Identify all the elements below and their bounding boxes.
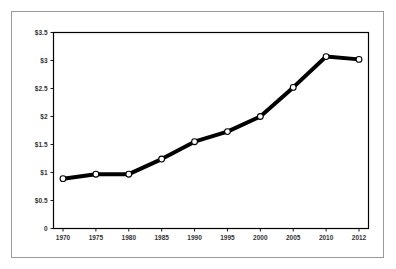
data-point-marker xyxy=(290,84,296,90)
data-point-marker xyxy=(192,139,198,145)
data-point-marker xyxy=(225,129,231,135)
x-axis-label: 1985 xyxy=(154,234,169,241)
x-axis-label: 1975 xyxy=(89,234,104,241)
x-axis-label: 2010 xyxy=(319,234,334,241)
y-axis-label: $2 xyxy=(40,113,48,121)
y-axis-label: $1.5 xyxy=(35,141,48,149)
x-axis-label: 1980 xyxy=(122,234,137,241)
data-series-markers xyxy=(60,54,362,182)
data-point-marker xyxy=(159,156,165,162)
x-axis-label: 1970 xyxy=(56,234,71,241)
x-axis-label: 1990 xyxy=(187,234,202,241)
data-point-marker xyxy=(323,54,329,60)
x-axis-label: 2000 xyxy=(253,234,268,241)
x-axis-label: 2005 xyxy=(286,234,301,241)
data-point-marker xyxy=(126,171,132,177)
y-axis-label: $1 xyxy=(40,169,48,177)
x-axis-label: 1995 xyxy=(220,234,235,241)
data-point-marker xyxy=(60,176,66,182)
x-axis-tick-labels: 1970197519801985199019952000200520102012 xyxy=(56,234,367,241)
y-axis-label: 0 xyxy=(44,225,48,232)
y-axis-tick-labels: 0$0.5$1$1.5$2$2.5$3$3.5 xyxy=(35,29,48,232)
y-axis-label: $3.5 xyxy=(35,29,48,37)
line-chart: 0$0.5$1$1.5$2$2.5$3$3.5 1970197519801985… xyxy=(0,0,396,269)
y-axis-label: $2.5 xyxy=(35,85,48,93)
data-series-line xyxy=(63,57,359,179)
data-point-marker xyxy=(356,56,362,62)
data-point-marker xyxy=(93,171,99,177)
data-point-marker xyxy=(257,114,263,120)
x-axis-label: 2012 xyxy=(352,234,367,241)
y-axis-label: $0.5 xyxy=(35,197,48,205)
y-axis-label: $3 xyxy=(40,57,48,65)
